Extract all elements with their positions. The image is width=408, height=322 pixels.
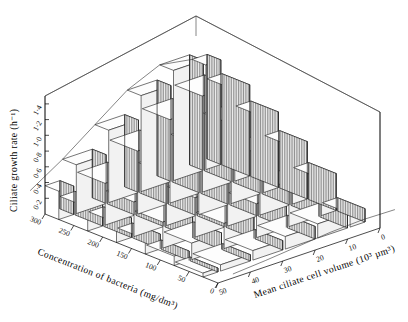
z-tick-label: 1·4 <box>31 103 44 116</box>
y-tick-label: 20 <box>315 253 325 264</box>
figure-panel: 0·20·40·60·81·01·21·4 300250200150100500… <box>0 0 408 322</box>
y-tick-label: 30 <box>283 264 293 275</box>
z-tick-label: 0·2 <box>31 198 44 211</box>
surface-front-face <box>125 115 139 193</box>
surface-front-face <box>157 80 171 182</box>
z-tick-label: 0·4 <box>31 182 44 195</box>
y-tick-label: 40 <box>250 275 260 286</box>
z-axis-ticks: 0·20·40·60·81·01·21·4 <box>31 103 49 211</box>
y-tick-label: 50 <box>218 286 228 297</box>
y-tick-label: 0 <box>380 232 387 242</box>
z-axis-title: Ciliate growth rate (h⁻¹) <box>8 109 20 212</box>
surface-mesh <box>30 54 395 277</box>
z-tick-label: 1·0 <box>31 135 44 148</box>
x-tick-label: 0 <box>209 286 216 296</box>
surface-front-face <box>190 55 204 171</box>
z-tick-label: 0·6 <box>31 166 44 179</box>
y-tick-label: 10 <box>347 242 357 253</box>
surface-front-face <box>207 54 221 164</box>
x-tick-label: 300 <box>29 214 43 227</box>
x-tick-label: 150 <box>115 249 129 262</box>
x-tick-label: 200 <box>86 237 100 250</box>
x-tick-label: 250 <box>57 226 71 239</box>
surface-front-face <box>251 101 279 188</box>
surface-front-face <box>222 74 250 176</box>
surface-plot-svg: 0·20·40·60·81·01·21·4 300250200150100500… <box>0 0 408 322</box>
x-axis-title: Concentration of bacteria (mg/dm³) <box>36 246 180 312</box>
z-tick-label: 1·2 <box>31 119 44 132</box>
z-tick-label: 0·8 <box>31 151 44 164</box>
x-tick-label: 50 <box>176 273 187 284</box>
x-tick-label: 100 <box>144 260 158 273</box>
